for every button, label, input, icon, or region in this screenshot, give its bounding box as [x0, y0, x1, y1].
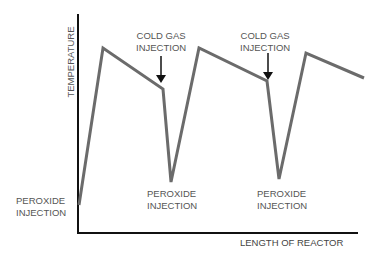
cold-gas-arrow-1-icon — [156, 56, 166, 83]
cold-gas-injection-label-1: COLD GAS INJECTION — [136, 30, 186, 54]
peroxide-injection-label-3: PEROXIDE INJECTION — [257, 188, 307, 212]
peroxide-injection-label-1: PEROXIDE INJECTION — [16, 195, 66, 219]
reactor-temperature-diagram: TEMPERATURE LENGTH OF REACTOR COLD GAS I… — [0, 0, 378, 257]
peroxide-injection-label-2: PEROXIDE INJECTION — [147, 188, 197, 212]
cold-gas-injection-label-2: COLD GAS INJECTION — [240, 30, 290, 54]
x-axis-label: LENGTH OF REACTOR — [240, 237, 343, 248]
y-axis-label: TEMPERATURE — [65, 26, 76, 97]
cold-gas-arrow-2-icon — [263, 53, 273, 80]
temperature-profile-line — [79, 48, 364, 205]
